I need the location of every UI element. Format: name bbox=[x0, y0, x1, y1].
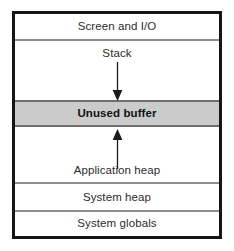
memory-band-screen-and-io: Screen and I/O bbox=[15, 14, 219, 40]
memory-map-diagram: Screen and I/O Stack Unused buffer Appli… bbox=[0, 0, 234, 251]
memory-band-unused-buffer: Unused buffer bbox=[15, 100, 219, 127]
memory-band-label: Screen and I/O bbox=[78, 21, 157, 33]
memory-band-label: System heap bbox=[83, 192, 151, 204]
heap-growth-arrow bbox=[111, 129, 124, 169]
memory-band-system-heap: System heap bbox=[15, 184, 219, 211]
memory-band-label: System globals bbox=[77, 218, 156, 230]
memory-band-label: Stack bbox=[102, 48, 131, 60]
memory-band-system-globals: System globals bbox=[15, 212, 219, 236]
stack-growth-arrow bbox=[111, 62, 124, 102]
memory-bands: Screen and I/O Stack Unused buffer Appli… bbox=[15, 14, 219, 236]
memory-band-label: Unused buffer bbox=[77, 108, 156, 120]
